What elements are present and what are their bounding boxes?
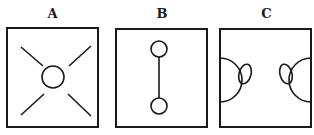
panel-b-frame bbox=[116, 29, 207, 127]
right-oval-lobe bbox=[278, 63, 295, 85]
panel-b-drawing bbox=[115, 0, 209, 135]
panel-b: B bbox=[115, 0, 209, 135]
diagonal-line-top-right bbox=[69, 46, 91, 66]
panel-c-frame bbox=[220, 29, 311, 127]
panel-a-drawing bbox=[6, 0, 99, 135]
panel-a: A bbox=[6, 0, 99, 135]
central-circle bbox=[42, 66, 64, 88]
panel-c: C bbox=[219, 0, 314, 135]
diagonal-line-top-left bbox=[21, 47, 43, 66]
panel-a-frame bbox=[7, 28, 98, 127]
left-oval-lobe bbox=[237, 63, 254, 85]
top-circle bbox=[151, 41, 167, 57]
diagonal-line-bottom-right bbox=[68, 94, 91, 116]
bottom-circle bbox=[151, 98, 167, 114]
panel-c-drawing bbox=[219, 0, 314, 135]
diagonal-line-bottom-left bbox=[21, 94, 44, 115]
